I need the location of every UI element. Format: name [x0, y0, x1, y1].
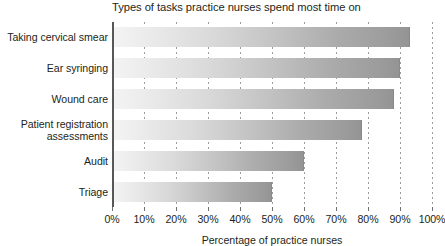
bar-row — [112, 120, 432, 140]
x-tick-mark-30 — [208, 207, 209, 211]
gridline-100 — [432, 22, 433, 207]
x-axis: 0%10%20%30%40%50%60%70%80%90%100% — [112, 207, 444, 227]
x-tick-mark-100 — [432, 207, 433, 211]
x-tick-mark-0 — [112, 207, 113, 211]
bar-row — [112, 182, 432, 202]
category-label-line: Audit — [4, 155, 108, 167]
gridline-60 — [304, 22, 305, 207]
bar-1 — [112, 58, 400, 78]
category-axis-labels: Taking cervical smearEar syringingWound … — [0, 22, 108, 207]
x-tick-mark-10 — [144, 207, 145, 211]
x-tick-label-10: 10% — [134, 213, 155, 225]
bar-5 — [112, 182, 272, 202]
x-tick-mark-20 — [176, 207, 177, 211]
bar-row — [112, 58, 432, 78]
x-tick-label-80: 80% — [358, 213, 379, 225]
x-axis-title: Percentage of practice nurses — [112, 234, 432, 246]
gridline-10 — [144, 22, 145, 207]
gridline-20 — [176, 22, 177, 207]
chart-title: Types of tasks practice nurses spend mos… — [112, 0, 444, 16]
category-label-line: Wound care — [4, 93, 108, 105]
x-tick-mark-60 — [304, 207, 305, 211]
y-axis-line — [112, 22, 114, 207]
category-label-3: Patient registrationassessments — [4, 118, 108, 142]
gridline-80 — [368, 22, 369, 207]
gridline-40 — [240, 22, 241, 207]
x-tick-mark-40 — [240, 207, 241, 211]
category-label-line: assessments — [4, 130, 108, 142]
bar-row — [112, 89, 432, 109]
category-label-0: Taking cervical smear — [4, 31, 108, 43]
bar-3 — [112, 120, 362, 140]
category-label-2: Wound care — [4, 93, 108, 105]
x-tick-label-70: 70% — [326, 213, 347, 225]
x-tick-label-90: 90% — [390, 213, 411, 225]
category-label-line: Taking cervical smear — [4, 31, 108, 43]
gridline-70 — [336, 22, 337, 207]
bar-2 — [112, 89, 394, 109]
plot-area — [112, 22, 432, 207]
x-tick-label-30: 30% — [198, 213, 219, 225]
gridline-30 — [208, 22, 209, 207]
gridline-50 — [272, 22, 273, 207]
bar-4 — [112, 151, 304, 171]
x-tick-label-60: 60% — [294, 213, 315, 225]
x-tick-mark-90 — [400, 207, 401, 211]
category-label-line: Patient registration — [4, 118, 108, 130]
bar-row — [112, 27, 432, 47]
x-tick-mark-50 — [272, 207, 273, 211]
x-tick-mark-80 — [368, 207, 369, 211]
category-label-line: Ear syringing — [4, 62, 108, 74]
x-tick-label-20: 20% — [166, 213, 187, 225]
x-tick-label-0: 0% — [104, 213, 119, 225]
gridline-90 — [400, 22, 401, 207]
x-tick-label-100: 100% — [419, 213, 445, 225]
category-label-5: Triage — [4, 186, 108, 198]
category-label-4: Audit — [4, 155, 108, 167]
x-tick-mark-70 — [336, 207, 337, 211]
category-label-line: Triage — [4, 186, 108, 198]
x-tick-label-50: 50% — [262, 213, 283, 225]
bar-0 — [112, 27, 410, 47]
category-label-1: Ear syringing — [4, 62, 108, 74]
x-tick-label-40: 40% — [230, 213, 251, 225]
bar-row — [112, 151, 432, 171]
